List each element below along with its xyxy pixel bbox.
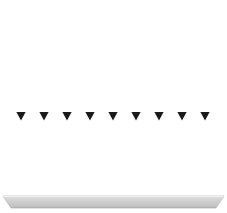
diagram-canvas: [0, 0, 227, 213]
ground-slab: [3, 196, 224, 208]
field-diagram-figure: [0, 0, 227, 213]
ground-plane: [3, 196, 224, 208]
